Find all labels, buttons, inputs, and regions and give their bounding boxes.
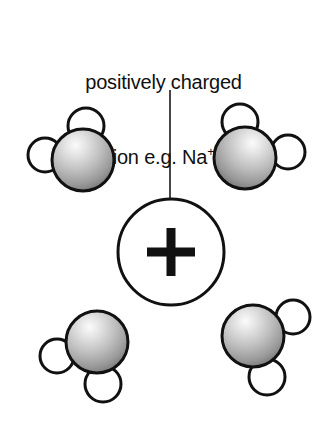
ion-plus-vertical-bar xyxy=(167,228,176,276)
oxygen-atom-icon xyxy=(66,311,128,373)
water-molecule-bottom-left xyxy=(40,311,128,402)
ion-group xyxy=(118,199,224,305)
oxygen-atom-icon xyxy=(222,305,284,367)
oxygen-atom-icon xyxy=(52,129,114,191)
water-molecule-top-left xyxy=(28,108,114,191)
molecule-illustration xyxy=(0,0,327,432)
water-molecule-bottom-right xyxy=(222,300,310,395)
diagram-canvas: positively charged ion e.g. Na+ xyxy=(0,0,327,432)
water-molecule-top-right xyxy=(214,104,305,189)
oxygen-atom-icon xyxy=(214,127,276,189)
